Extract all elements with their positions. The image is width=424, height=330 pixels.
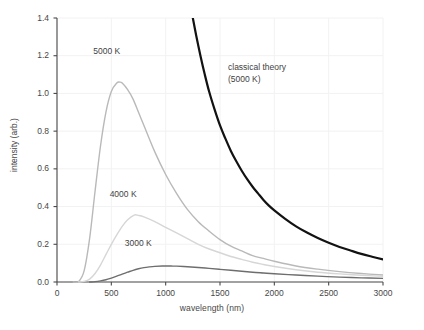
x-tick-label: 2000 xyxy=(254,288,294,298)
x-axis-label: wavelength (nm) xyxy=(0,303,424,313)
y-tick-label: 0.6 xyxy=(19,163,49,173)
curve-5000-k xyxy=(73,82,383,282)
data-curves xyxy=(73,18,383,282)
curve-label-3000-k: 3000 K xyxy=(125,238,152,248)
y-tick-label: 0.4 xyxy=(19,201,49,211)
y-tick-label: 1.0 xyxy=(19,88,49,98)
classical-theory-annotation: classical theory (5000 K) xyxy=(228,62,286,85)
y-axis-label: intensity (arb.) xyxy=(9,85,19,205)
x-tick-label: 1500 xyxy=(200,288,240,298)
y-tick-label: 0.2 xyxy=(19,239,49,249)
classical-theory-line1: classical theory xyxy=(228,62,286,74)
gridlines xyxy=(57,18,383,282)
y-axis-label-container: intensity (arb.) xyxy=(0,0,20,290)
x-tick-label: 0 xyxy=(37,288,77,298)
curve-classical-theory-5000-k xyxy=(193,18,383,259)
y-tick-label: 1.4 xyxy=(19,13,49,23)
y-tick-label: 0.8 xyxy=(19,126,49,136)
x-tick-label: 1000 xyxy=(146,288,186,298)
curve-label-4000-k: 4000 K xyxy=(110,189,137,199)
curve-label-5000-k: 5000 K xyxy=(93,46,120,56)
classical-theory-line2: (5000 K) xyxy=(228,74,286,86)
x-tick-label: 2500 xyxy=(309,288,349,298)
y-tick-label: 1.2 xyxy=(19,50,49,60)
blackbody-radiation-chart: intensity (arb.) wavelength (nm) 0.00.20… xyxy=(0,0,424,330)
chart-plot-area xyxy=(0,0,424,330)
y-tick-label: 0.0 xyxy=(19,277,49,287)
x-tick-label: 500 xyxy=(91,288,131,298)
x-tick-label: 3000 xyxy=(363,288,403,298)
